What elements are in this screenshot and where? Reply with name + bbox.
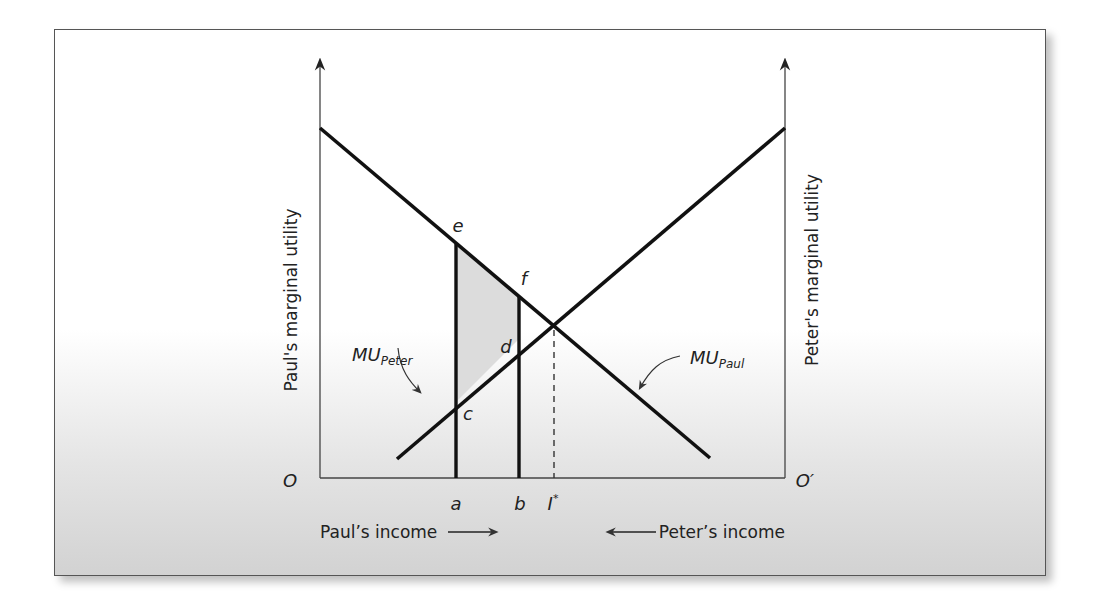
right-axis-label: Peter's marginal utility — [802, 174, 822, 366]
origin-right-label: O′ — [796, 470, 814, 491]
tick-a-label: a — [450, 493, 461, 514]
point-c-label: c — [463, 403, 473, 424]
point-e-label: e — [452, 215, 463, 236]
tick-istar-label: I* — [548, 492, 559, 514]
marginal-utility-diagram: Paul's marginal utility Peter's marginal… — [0, 0, 1094, 605]
mu-peter-label: MUPeter — [352, 344, 413, 368]
peter-income-label: Peter’s income — [659, 522, 785, 542]
mu-paul-callout-arrow — [640, 356, 680, 388]
mu-paul-label: MUPaul — [690, 347, 745, 371]
point-f-label: f — [521, 268, 530, 289]
mu-paul-line — [320, 128, 710, 458]
tick-b-label: b — [514, 493, 525, 514]
left-axis-label: Paul's marginal utility — [281, 208, 301, 391]
origin-left-label: O — [283, 470, 297, 491]
paul-income-label: Paul’s income — [320, 522, 437, 542]
point-d-label: d — [500, 336, 512, 357]
